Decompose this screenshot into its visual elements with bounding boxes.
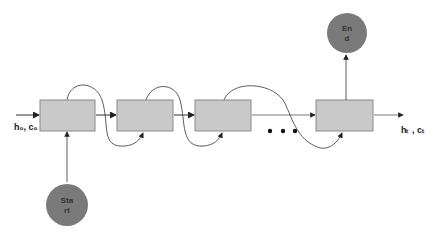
lstm-cell-1: [40, 100, 95, 131]
lstm-cell-t: [316, 100, 373, 131]
lstm-cell-3: [195, 100, 251, 131]
input-label: h₀, c₀: [14, 122, 38, 132]
start-node-label-1: Sta: [61, 196, 74, 205]
end-node-label-2: d: [345, 34, 350, 43]
ellipsis-dots: [268, 129, 297, 133]
output-label: hₜ , cₜ: [401, 125, 425, 135]
start-node-label-2: rt: [64, 206, 70, 215]
lstm-cell-2: [117, 100, 173, 131]
end-node: [327, 13, 367, 53]
end-node-label-1: En: [342, 24, 352, 33]
lstm-diagram: Sta rt En d h₀, c₀ hₜ , cₜ: [0, 0, 439, 240]
start-node: [46, 184, 88, 226]
